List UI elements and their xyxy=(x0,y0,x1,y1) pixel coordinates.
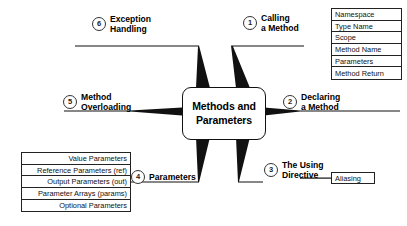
branch-label-1: Callinga Method xyxy=(261,13,299,33)
branch-label-3: The UsingDirective xyxy=(282,160,324,180)
branch-label-5: MethodOverloading xyxy=(81,92,131,112)
branch-label-6-line2: Handling xyxy=(110,24,147,34)
branch-label-6-line1: Exception xyxy=(110,14,151,24)
branch-label-5-line1: Method xyxy=(81,92,112,102)
branch-parameters[interactable]: 4 Parameters xyxy=(131,170,196,184)
list-item[interactable]: Namespace xyxy=(332,9,401,21)
center-node-line2: Parameters xyxy=(196,114,252,126)
list-item[interactable]: Method Name xyxy=(332,44,401,56)
branch-label-2-line1: Declaring xyxy=(301,92,340,102)
list-item[interactable]: Output Parameters (out) xyxy=(22,176,130,188)
branch-label-3-line2: Directive xyxy=(282,170,318,180)
branch-exception-handling[interactable]: 6 ExceptionHandling xyxy=(92,14,151,34)
mind-map-diagram: Methods andParameters 1 Callinga Method … xyxy=(0,0,407,226)
branch-1-stroke xyxy=(231,45,304,88)
list-item[interactable]: Reference Parameters (ref) xyxy=(22,165,130,177)
list-item[interactable]: Optional Parameters xyxy=(22,200,130,212)
center-node: Methods andParameters xyxy=(182,87,266,140)
aliasing-subitem[interactable]: Aliasing xyxy=(331,172,375,184)
list-item[interactable]: Type Name xyxy=(332,21,401,33)
branch-label-5-line2: Overloading xyxy=(81,102,131,112)
center-node-line1: Methods and xyxy=(192,100,256,112)
list-item[interactable]: Method Return xyxy=(332,67,401,79)
branch-number-icon-4: 4 xyxy=(131,170,145,184)
list-item[interactable]: Scope xyxy=(332,32,401,44)
branch-label-3-line1: The Using xyxy=(282,160,324,170)
branch-number-icon-6: 6 xyxy=(92,17,106,31)
branch-label-2: Declaringa Method xyxy=(301,92,340,112)
branch-number-icon-5: 5 xyxy=(63,95,77,109)
branch-declaring-a-method[interactable]: 2 Declaringa Method xyxy=(283,92,340,112)
list-item[interactable]: Parameters xyxy=(332,56,401,68)
branch-number-icon-3: 3 xyxy=(264,163,278,177)
branch-label-4: Parameters xyxy=(149,172,196,182)
branch-the-using-directive[interactable]: 3 The UsingDirective xyxy=(264,160,324,180)
list-item[interactable]: Value Parameters xyxy=(22,153,130,165)
branch-label-2-line2: a Method xyxy=(301,102,339,112)
parameters-subitem-list: Value Parameters Reference Parameters (r… xyxy=(21,152,131,212)
branch-3-stroke xyxy=(236,137,263,183)
branch-label-6: ExceptionHandling xyxy=(110,14,151,34)
branch-calling-a-method[interactable]: 1 Callinga Method xyxy=(243,13,299,33)
list-item[interactable]: Parameter Arrays (params) xyxy=(22,188,130,200)
branch-6-stroke xyxy=(75,45,210,88)
branch-label-1-line1: Calling xyxy=(261,13,290,23)
calling-a-method-subitem-list: Namespace Type Name Scope Method Name Pa… xyxy=(331,8,402,80)
branch-method-overloading[interactable]: 5 MethodOverloading xyxy=(63,92,131,112)
branch-label-1-line2: a Method xyxy=(261,23,299,33)
branch-number-icon-2: 2 xyxy=(283,95,297,109)
center-node-label: Methods andParameters xyxy=(192,100,256,126)
branch-number-icon-1: 1 xyxy=(243,16,257,30)
